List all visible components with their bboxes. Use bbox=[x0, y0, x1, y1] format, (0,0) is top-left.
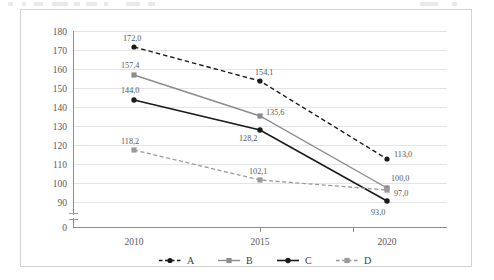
legend-item-b[interactable]: B bbox=[218, 255, 253, 266]
data-label-b-2020: 100,0 bbox=[391, 174, 409, 183]
data-label-d-2020: 97,0 bbox=[394, 189, 408, 198]
data-label-a-2010: 172,0 bbox=[123, 34, 141, 43]
y-tick-130: 130 bbox=[53, 122, 68, 132]
x-tick-2015: 2015 bbox=[251, 237, 270, 247]
x-tick-2020: 2020 bbox=[378, 237, 397, 247]
y-tick-110: 110 bbox=[53, 160, 67, 170]
y-tick-140: 140 bbox=[53, 103, 68, 113]
line-chart: 180 170 160 150 140 130 120 110 100 90 0… bbox=[21, 10, 473, 268]
legend-item-a[interactable]: A bbox=[159, 255, 195, 266]
legend-item-d[interactable]: D bbox=[336, 255, 371, 266]
y-tick-120: 120 bbox=[53, 141, 68, 151]
data-label-c-2010: 144,0 bbox=[121, 86, 139, 95]
series-a bbox=[131, 44, 389, 161]
data-label-b-2015: 135,6 bbox=[266, 108, 284, 117]
legend-label-a: A bbox=[187, 255, 195, 266]
x-tick-2010: 2010 bbox=[125, 237, 144, 247]
y-tick-0: 0 bbox=[62, 223, 67, 233]
y-tick-90: 90 bbox=[58, 198, 68, 208]
data-label-a-2015: 154,1 bbox=[255, 68, 273, 77]
legend-label-d: D bbox=[364, 255, 371, 266]
data-label-d-2015: 102,1 bbox=[249, 167, 267, 176]
cropped-top-artifact bbox=[0, 0, 494, 9]
data-label-d-2010: 118,2 bbox=[121, 137, 139, 146]
chart-legend: A B C D bbox=[159, 255, 371, 266]
data-label-c-2015: 128,2 bbox=[239, 134, 257, 143]
legend-label-b: B bbox=[246, 255, 253, 266]
y-tick-170: 170 bbox=[53, 46, 68, 56]
chart-frame: 180 170 160 150 140 130 120 110 100 90 0… bbox=[20, 9, 472, 267]
legend-item-c[interactable]: C bbox=[277, 255, 312, 266]
data-label-c-2020: 93,0 bbox=[371, 208, 385, 217]
data-label-b-2010: 157,4 bbox=[121, 61, 139, 70]
y-tick-180: 180 bbox=[53, 27, 68, 37]
y-tick-100: 100 bbox=[53, 179, 68, 189]
y-tick-150: 150 bbox=[53, 84, 68, 94]
legend-label-c: C bbox=[305, 255, 312, 266]
data-label-a-2020: 113,0 bbox=[394, 150, 412, 159]
y-tick-160: 160 bbox=[53, 65, 68, 75]
